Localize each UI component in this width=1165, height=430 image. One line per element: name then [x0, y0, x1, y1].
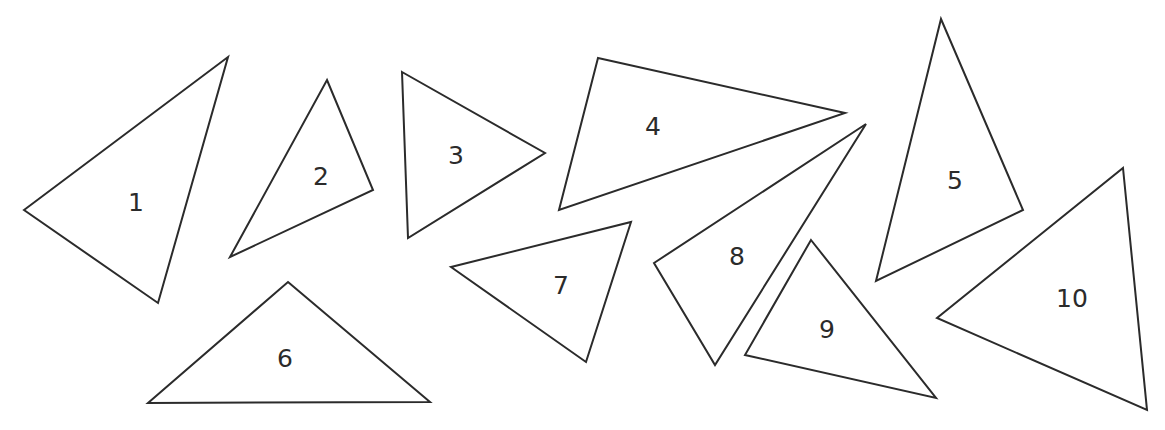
triangle-10-label: 10 [1056, 284, 1088, 313]
triangle-6 [148, 282, 430, 403]
triangle-1-label: 1 [128, 188, 144, 217]
triangle-5 [876, 19, 1023, 281]
triangle-7-label: 7 [553, 271, 569, 300]
triangles-canvas: 12345678910 [0, 0, 1165, 430]
triangle-2-label: 2 [313, 162, 329, 191]
triangle-7 [451, 222, 631, 362]
triangle-9-label: 9 [819, 315, 835, 344]
triangle-4-label: 4 [645, 112, 661, 141]
triangle-1 [24, 57, 228, 303]
triangle-6-label: 6 [277, 344, 293, 373]
triangle-8-label: 8 [729, 242, 745, 271]
triangles-figure: 12345678910 [0, 0, 1165, 430]
triangle-5-label: 5 [947, 166, 963, 195]
shape-layer [24, 19, 1147, 410]
triangle-3 [402, 72, 545, 238]
triangle-2 [230, 80, 373, 257]
triangle-3-label: 3 [448, 141, 464, 170]
